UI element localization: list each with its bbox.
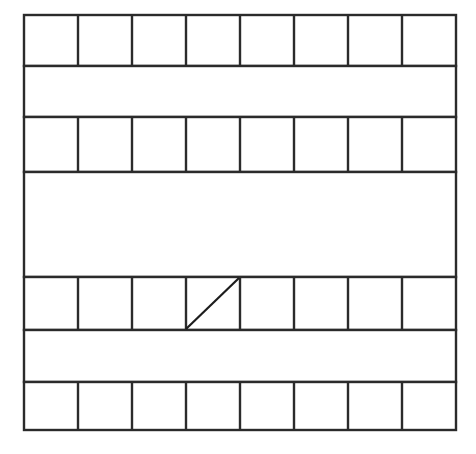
figure-canvas <box>0 0 476 454</box>
bands-layer <box>24 15 456 430</box>
plain-band-outline <box>24 172 456 277</box>
plain-band-outline <box>24 330 456 382</box>
banded-grid-figure <box>0 0 476 454</box>
plain-band-outline <box>24 66 456 117</box>
